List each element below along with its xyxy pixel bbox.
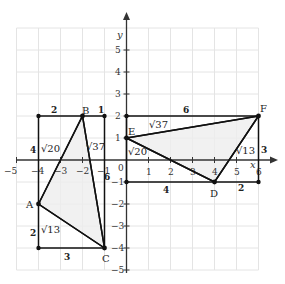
len-def-right: 3: [261, 145, 267, 155]
x-axis-label: x: [250, 159, 256, 170]
point-c: [102, 246, 107, 251]
point-d: [212, 180, 217, 185]
len-abc-top-right: 1: [98, 105, 104, 115]
svg-text:3: 3: [115, 89, 121, 99]
len-def-bottom-left: 4: [163, 185, 169, 195]
svg-text:−3: −3: [111, 221, 125, 231]
svg-text:−4: −4: [111, 243, 125, 253]
len-def-bottom-right: 2: [238, 183, 244, 193]
label-d: D: [210, 188, 218, 199]
side-ef: √37: [149, 119, 168, 130]
svg-text:0: 0: [118, 163, 124, 173]
svg-text:1: 1: [146, 167, 152, 177]
svg-text:−5: −5: [111, 265, 125, 275]
svg-text:−5: −5: [4, 166, 18, 176]
side-ac: √13: [41, 224, 60, 235]
x-axis-arrow-icon: [270, 157, 278, 164]
side-bc: √37: [86, 141, 105, 152]
svg-text:4: 4: [212, 167, 218, 177]
len-abc-left-lower: 2: [30, 228, 36, 238]
label-f: F: [260, 103, 267, 114]
svg-text:5: 5: [234, 167, 240, 177]
coordinate-diagram: −5 −4 −3 −2 −1 1 2 3 4 5 6 0 5 4 3 2 1 −…: [0, 0, 285, 284]
len-abc-top-left: 2: [51, 105, 57, 115]
len-def-top: 6: [183, 105, 189, 115]
side-df: √13: [236, 145, 255, 156]
svg-text:4: 4: [115, 67, 121, 77]
point-a: [36, 202, 41, 207]
point-f: [256, 114, 261, 119]
len-abc-bottom: 3: [64, 252, 70, 262]
label-a: A: [25, 199, 34, 210]
len-abc-right: 6: [104, 172, 110, 182]
label-c: C: [102, 253, 110, 264]
svg-text:−1: −1: [111, 177, 124, 187]
svg-text:−2: −2: [76, 166, 89, 176]
svg-text:2: 2: [115, 111, 121, 121]
label-b: B: [82, 105, 89, 116]
svg-text:5: 5: [115, 45, 121, 55]
side-ab: √20: [41, 143, 60, 154]
svg-text:−2: −2: [111, 199, 124, 209]
y-axis-label: y: [116, 29, 123, 40]
label-e: E: [128, 126, 135, 137]
svg-text:2: 2: [168, 167, 174, 177]
side-ed: √20: [128, 146, 147, 157]
y-axis-arrow-icon: [123, 12, 130, 20]
len-abc-left-upper: 4: [30, 145, 36, 155]
svg-text:1: 1: [115, 133, 121, 143]
